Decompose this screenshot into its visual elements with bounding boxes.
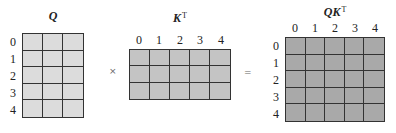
matrix-cell (63, 67, 83, 84)
matrix-cell (150, 50, 170, 66)
matrix-cell (345, 88, 365, 105)
matrix-cell (306, 71, 326, 88)
col-label: 1 (149, 34, 169, 46)
matrix-kt-grid (129, 49, 231, 100)
matrix-cell (23, 67, 43, 84)
matrix-cell (43, 51, 63, 68)
matrix-cell (190, 66, 210, 82)
matrix-cell (23, 51, 43, 68)
col-label: 1 (305, 22, 325, 34)
matrix-cell (364, 71, 384, 88)
matrix-cell (23, 100, 43, 117)
matrix-cell (364, 38, 384, 55)
col-label: 2 (325, 22, 345, 34)
matrix-qkt-grid (285, 37, 385, 122)
matrix-cell (306, 38, 326, 55)
multiply-operator: × (109, 66, 117, 76)
matrix-cell (63, 84, 83, 101)
matrix-cell (150, 83, 170, 99)
col-label: 3 (345, 22, 365, 34)
matrix-cell (325, 88, 345, 105)
row-label: 4 (271, 108, 281, 120)
row-label: 2 (8, 70, 18, 82)
col-label: 4 (211, 34, 231, 46)
matrix-qkt-title-text: QK (324, 5, 341, 19)
matrix-cell (170, 66, 190, 82)
matrix-cell (306, 88, 326, 105)
matrix-cell (286, 104, 306, 121)
matrix-cell (325, 71, 345, 88)
matrix-cell (306, 104, 326, 121)
matrix-cell (190, 83, 210, 99)
row-label: 3 (271, 91, 281, 103)
matrix-cell (364, 55, 384, 72)
matrix-cell (130, 83, 150, 99)
matrix-qkt-title: QKT (285, 4, 385, 18)
col-label: 3 (190, 34, 210, 46)
matrix-cell (210, 66, 230, 82)
matrix-cell (210, 50, 230, 66)
matrix-cell (43, 84, 63, 101)
col-label: 0 (129, 34, 149, 46)
matrix-cell (345, 38, 365, 55)
matrix-cell (210, 83, 230, 99)
transpose-superscript: T (341, 5, 346, 14)
matrix-kt-title: KT (129, 10, 231, 24)
matrix-cell (364, 104, 384, 121)
matrix-cell (130, 66, 150, 82)
matrix-q-grid (22, 33, 84, 118)
col-label: 2 (170, 34, 190, 46)
row-label: 0 (271, 40, 281, 52)
row-label: 1 (8, 53, 18, 65)
matrix-cell (325, 104, 345, 121)
matrix-cell (325, 55, 345, 72)
matrix-cell (286, 55, 306, 72)
row-label: 4 (8, 104, 18, 116)
matrix-cell (63, 34, 83, 51)
matrix-cell (345, 55, 365, 72)
matrix-cell (170, 83, 190, 99)
matrix-cell (43, 100, 63, 117)
matrix-cell (286, 88, 306, 105)
matrix-cell (170, 50, 190, 66)
matrix-cell (345, 104, 365, 121)
matrix-cell (63, 51, 83, 68)
matrix-q-title: Q (22, 10, 84, 22)
matrix-cell (364, 88, 384, 105)
matrix-cell (23, 34, 43, 51)
matrix-cell (43, 67, 63, 84)
matrix-q-title-text: Q (49, 9, 58, 23)
row-label: 1 (271, 57, 281, 69)
row-label: 3 (8, 87, 18, 99)
matrix-cell (130, 50, 150, 66)
equals-operator: = (244, 67, 252, 77)
matrix-cell (345, 71, 365, 88)
transpose-superscript: T (182, 11, 187, 20)
matrix-cell (306, 55, 326, 72)
matrix-cell (325, 38, 345, 55)
matrix-cell (23, 84, 43, 101)
matrix-cell (43, 34, 63, 51)
matrix-cell (190, 50, 210, 66)
col-label: 0 (285, 22, 305, 34)
row-label: 2 (271, 74, 281, 86)
matrix-kt-title-text: K (173, 11, 181, 25)
matrix-cell (63, 100, 83, 117)
matrix-cell (286, 38, 306, 55)
matrix-cell (286, 71, 306, 88)
matrix-cell (150, 66, 170, 82)
row-label: 0 (8, 36, 18, 48)
col-label: 4 (365, 22, 385, 34)
